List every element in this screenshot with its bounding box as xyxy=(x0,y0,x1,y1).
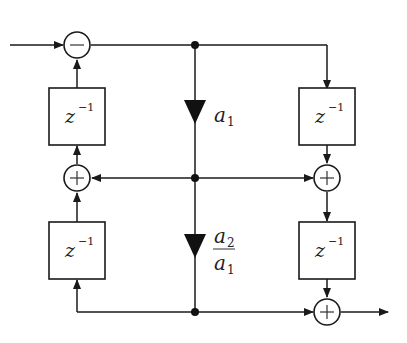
svg-text:−1: −1 xyxy=(78,101,94,114)
adder-output xyxy=(314,299,340,325)
delay-right-bottom: z −1 xyxy=(299,222,355,279)
svg-text:z: z xyxy=(64,105,76,127)
adder-left-middle xyxy=(64,165,90,191)
svg-text:a: a xyxy=(214,224,226,248)
gain-a2-over-a1-label: a 2 a 1 xyxy=(213,224,235,277)
gain-a1-triangle-icon xyxy=(184,100,206,124)
svg-text:−1: −1 xyxy=(78,235,94,248)
svg-text:−1: −1 xyxy=(328,235,344,248)
delay-right-top: z −1 xyxy=(299,88,355,145)
svg-text:−1: −1 xyxy=(328,101,344,114)
gain-a1-label: a 1 xyxy=(214,103,235,129)
svg-text:z: z xyxy=(314,239,326,261)
svg-text:a: a xyxy=(214,103,226,127)
delay-left-bottom: z −1 xyxy=(49,222,105,279)
subtractor-input xyxy=(64,32,90,58)
svg-text:1: 1 xyxy=(227,115,235,129)
delay-left-top: z −1 xyxy=(49,88,105,145)
adder-right-middle xyxy=(314,165,340,191)
svg-text:z: z xyxy=(64,239,76,261)
junction-middle-node xyxy=(191,174,199,182)
svg-text:z: z xyxy=(314,105,326,127)
lattice-filter-diagram: z −1 z −1 z −1 z −1 a 1 a xyxy=(0,0,407,343)
svg-text:1: 1 xyxy=(227,263,235,277)
junction-top-node xyxy=(191,41,199,49)
svg-text:a: a xyxy=(214,251,226,275)
svg-text:2: 2 xyxy=(227,236,235,250)
junction-bottom-node xyxy=(191,308,199,316)
gain-a2-a1-triangle-icon xyxy=(184,234,206,258)
